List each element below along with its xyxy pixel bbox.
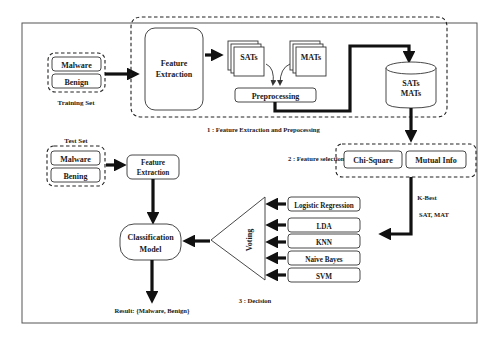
stage3-caption: 3 : Decision [239,297,272,304]
training-set-group: Malware Benign Training Set [48,53,105,107]
sats-mats-database: SATs MATs [386,62,436,108]
classifier-logistic-regression-label: Logistic Regression [294,202,354,210]
classifier-lda-label: LDA [316,223,332,231]
classifier-list: Logistic Regression LDA KNN Naive Bayes … [271,197,360,282]
classifier-knn-label: KNN [316,239,333,247]
classifier-naive-bayes-label: Naive Bayes [305,256,343,264]
mutual-info-label: Mutual Info [415,156,457,165]
test-feature-extraction-line2: Extraction [137,169,170,177]
feature-extraction-box [145,28,203,110]
test-malware-label: Malware [60,155,91,164]
training-malware-label: Malware [61,61,92,70]
kbest-label: K-Best [417,194,437,201]
feature-extraction-label-line1: Feature [161,59,188,68]
test-bening-label: Bening [63,172,87,181]
database-label-line1: SATs [402,79,419,88]
classifier-svm-label: SVM [316,273,332,281]
malware-detection-pipeline-diagram: Malware Benign Training Set Feature Extr… [0,0,496,343]
classification-model-box [120,224,181,260]
stage1-caption: 1 : Feature Extraction and Prepocessing [207,126,320,133]
feature-extraction-label-line2: Extraction [156,70,193,79]
result-label: Result: {Malware, Benign} [114,307,190,315]
sats-document-stack: SATs [228,41,264,76]
preprocessing-label: Preprocessing [252,92,300,101]
arrow-mats-to-preprocessing [280,64,290,84]
mats-document-stack: MATs [290,41,326,76]
training-benign-label: Benign [64,78,89,87]
test-set-caption: Test Set [64,137,88,145]
mats-label: MATs [301,53,321,62]
test-feature-extraction-line1: Feature [141,159,165,167]
voting-label: Voting [245,229,254,251]
arrow-kbest-to-classifiers [384,177,411,234]
classification-model-line2: Model [140,245,163,254]
kbest-sub-label: SAT, MAT [419,211,450,218]
database-label-line2: MATs [401,89,421,98]
chi-square-label: Chi-Square [353,156,393,165]
arrow-sats-to-preprocessing [266,64,273,84]
classification-model-line1: Classification [127,233,174,242]
sats-label: SATs [240,53,257,62]
voting-triangle [211,197,265,280]
training-set-caption: Training Set [57,99,95,107]
